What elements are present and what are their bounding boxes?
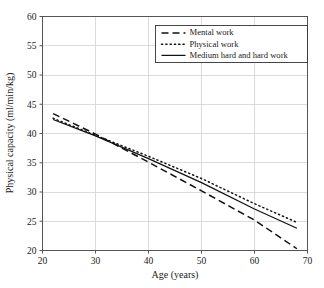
x-axis-title: Age (years) — [152, 269, 199, 281]
legend: Mental workPhysical workMedium hard and … — [156, 26, 308, 63]
x-tick-label: 40 — [144, 256, 154, 266]
legend-label: Medium hard and hard work — [190, 50, 289, 60]
y-tick-label: 60 — [27, 12, 37, 22]
y-tick-label: 20 — [27, 246, 37, 256]
y-tick-label: 40 — [27, 129, 37, 139]
tick-labels-y: 202530354045505560 — [27, 12, 37, 256]
x-tick-label: 70 — [303, 256, 313, 266]
y-axis-title: Physical capacity (ml/min/kg) — [4, 73, 16, 194]
y-tick-label: 35 — [27, 158, 37, 168]
y-tick-label: 55 — [27, 41, 37, 51]
y-tick-label: 25 — [27, 217, 37, 227]
legend-label: Mental work — [190, 27, 235, 37]
y-tick-label: 45 — [27, 100, 37, 110]
x-tick-label: 20 — [38, 256, 48, 266]
legend-label: Physical work — [190, 39, 240, 49]
x-tick-label: 60 — [250, 256, 260, 266]
y-tick-label: 30 — [27, 187, 37, 197]
x-tick-label: 50 — [197, 256, 207, 266]
y-tick-label: 50 — [27, 70, 37, 80]
x-tick-label: 30 — [91, 256, 101, 266]
series-line — [53, 119, 297, 228]
chart-figure: 202530354045505560 203040506070 Mental w… — [0, 0, 324, 288]
tick-labels-x: 203040506070 — [38, 256, 313, 266]
line-chart: 202530354045505560 203040506070 Mental w… — [0, 0, 324, 288]
